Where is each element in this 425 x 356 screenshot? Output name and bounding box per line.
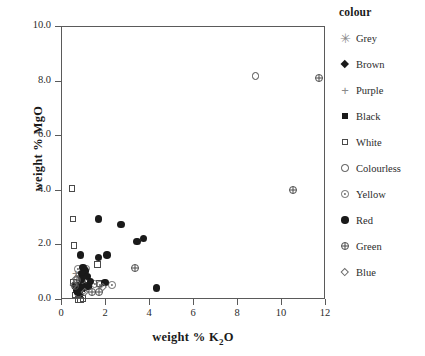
x-tick-mark — [281, 299, 282, 305]
data-point-yellow — [108, 275, 116, 283]
y-axis-title: weight % MgO — [31, 49, 46, 249]
filled-circle-marker-icon — [95, 215, 103, 223]
legend-label: Red — [356, 215, 373, 226]
data-point-blue — [71, 273, 77, 279]
legend-symbol-purple: + — [337, 82, 353, 98]
filled-circle-marker-icon — [95, 254, 103, 262]
open-square-marker-icon — [70, 216, 77, 223]
x-tick-mark — [105, 299, 106, 305]
legend-items: ✳GreyBrown+PurpleBlackWhiteColourlessYel… — [337, 25, 425, 285]
data-point-red — [117, 214, 125, 222]
data-point-colourless — [252, 66, 260, 74]
y-tick-label: 10.0 — [33, 20, 51, 31]
data-point-green — [315, 68, 323, 76]
x-axis-title: weight % K2O — [61, 330, 325, 347]
data-point-white — [69, 178, 76, 185]
data-point-blue — [100, 276, 106, 282]
x-tick-mark — [149, 299, 150, 305]
x-tick-label: 0 — [46, 308, 76, 319]
legend-label: Yellow — [356, 189, 386, 200]
data-point-green — [131, 258, 139, 266]
data-point-red — [95, 209, 103, 217]
legend-symbol-white — [337, 134, 353, 150]
legend-label: Black — [356, 111, 381, 122]
plus-circle-marker-icon — [88, 288, 96, 296]
filled-circle-marker-icon — [117, 221, 125, 229]
open-diamond-marker-icon — [341, 268, 349, 276]
legend-title: colour — [339, 6, 425, 18]
filled-circle-marker-icon — [341, 216, 349, 224]
legend-symbol-grey: ✳ — [337, 30, 353, 46]
x-tick-label: 6 — [178, 308, 208, 319]
legend-label: Green — [356, 241, 382, 252]
plus-circle-marker-icon — [289, 186, 297, 194]
filled-diamond-marker-icon — [341, 60, 349, 68]
x-tick-mark — [237, 299, 238, 305]
x-tick-mark — [61, 299, 62, 305]
data-point-green — [289, 180, 297, 188]
data-point-white — [70, 208, 77, 215]
legend-label: Blue — [356, 267, 376, 278]
asterisk-marker-icon: ✳ — [340, 32, 351, 45]
legend-item-black[interactable]: Black — [337, 103, 425, 129]
filled-circle-marker-icon — [153, 284, 161, 292]
plus-marker-icon: + — [341, 84, 349, 97]
data-point-white — [71, 235, 78, 242]
x-tick-label: 8 — [222, 308, 252, 319]
x-tick-mark — [193, 299, 194, 305]
data-point-red — [140, 228, 148, 236]
y-tick-label: 0.0 — [38, 293, 51, 304]
plus-circle-marker-icon — [131, 264, 139, 272]
dot-circle-marker-icon — [341, 190, 349, 198]
plus-circle-marker-icon — [315, 74, 323, 82]
filled-circle-marker-icon — [103, 251, 111, 259]
legend-item-yellow[interactable]: Yellow — [337, 181, 425, 207]
data-point-blue — [82, 280, 88, 286]
legend-symbol-green — [337, 238, 353, 254]
legend-item-blue[interactable]: Blue — [337, 259, 425, 285]
x-tick-label: 10 — [266, 308, 296, 319]
x-axis-title-post: O — [224, 330, 234, 344]
dot-circle-marker-icon — [108, 281, 116, 289]
filled-square-marker-icon — [342, 113, 349, 120]
legend-label: Purple — [356, 85, 383, 96]
legend: colour ✳GreyBrown+PurpleBlackWhiteColour… — [337, 6, 425, 285]
data-point-green — [88, 282, 96, 290]
data-points-layer: ++ — [62, 27, 324, 298]
plot-area: ++ — [61, 26, 325, 299]
legend-symbol-colourless — [337, 160, 353, 176]
legend-label: White — [356, 137, 382, 148]
legend-item-white[interactable]: White — [337, 129, 425, 155]
legend-symbol-blue — [337, 264, 353, 280]
x-tick-label: 12 — [310, 308, 340, 319]
legend-symbol-black — [337, 108, 353, 124]
open-square-marker-icon — [94, 261, 101, 268]
x-axis-title-pre: weight % K — [152, 330, 219, 344]
data-point-red — [153, 278, 161, 286]
legend-symbol-red — [337, 212, 353, 228]
open-circle-marker-icon — [252, 72, 260, 80]
legend-label: Grey — [356, 33, 377, 44]
legend-symbol-brown — [337, 56, 353, 72]
legend-item-colourless[interactable]: Colourless — [337, 155, 425, 181]
open-square-marker-icon — [69, 185, 76, 192]
x-tick-mark — [325, 299, 326, 305]
data-point-red — [103, 245, 111, 253]
legend-label: Colourless — [356, 163, 401, 174]
x-tick-label: 2 — [90, 308, 120, 319]
data-point-red — [77, 245, 85, 253]
open-circle-marker-icon — [341, 164, 349, 172]
open-square-marker-icon — [80, 295, 87, 302]
plus-circle-marker-icon — [341, 242, 349, 250]
scatter-plot-figure: 0.02.04.06.08.010.0 024681012 ++ weight … — [0, 0, 425, 356]
open-square-marker-icon — [342, 139, 349, 146]
legend-item-grey[interactable]: ✳Grey — [337, 25, 425, 51]
legend-item-green[interactable]: Green — [337, 233, 425, 259]
filled-circle-marker-icon — [140, 235, 148, 243]
x-tick-label: 4 — [134, 308, 164, 319]
legend-label: Brown — [356, 59, 385, 70]
legend-item-brown[interactable]: Brown — [337, 51, 425, 77]
legend-symbol-yellow — [337, 186, 353, 202]
legend-item-purple[interactable]: +Purple — [337, 77, 425, 103]
legend-item-red[interactable]: Red — [337, 207, 425, 233]
